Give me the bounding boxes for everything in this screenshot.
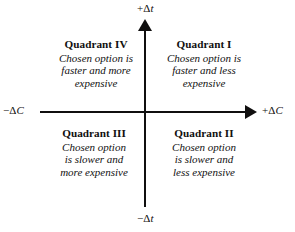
axis-label-positive-delta-t: +Δt	[137, 2, 154, 14]
quadrant-iv-block: Quadrant IV Chosen option is faster and …	[44, 38, 148, 89]
description-line: expensive	[152, 77, 256, 89]
delta-symbol: Δ	[268, 104, 275, 116]
delta-symbol: Δ	[9, 104, 16, 116]
quadrant-ii-block: Quadrant II Chosen option is slower and …	[152, 127, 256, 178]
variable-t: t	[151, 212, 154, 224]
description-line: is slower and	[152, 153, 256, 165]
delta-symbol: Δ	[143, 2, 150, 14]
description-line: faster and less	[152, 64, 256, 76]
variable-c: C	[17, 104, 24, 116]
delta-symbol: Δ	[143, 212, 150, 224]
axis-label-negative-delta-c: −ΔC	[3, 104, 24, 116]
description-line: more expensive	[42, 166, 146, 178]
description-line: is slower and	[42, 153, 146, 165]
quadrant-iii-description: Chosen option is slower and more expensi…	[42, 141, 146, 178]
description-line: Chosen option	[42, 141, 146, 153]
quadrant-ii-description: Chosen option is slower and less expensi…	[152, 141, 256, 178]
up-arrowhead-icon	[138, 19, 152, 31]
variable-c: C	[276, 104, 283, 116]
description-line: faster and more	[44, 64, 148, 76]
description-line: Chosen option is	[44, 52, 148, 64]
quadrant-iv-title: Quadrant IV	[44, 38, 148, 51]
description-line: expensive	[44, 77, 148, 89]
right-arrowhead-icon	[245, 105, 257, 119]
description-line: Chosen option is	[152, 52, 256, 64]
axis-label-positive-delta-c: +ΔC	[262, 104, 283, 116]
quadrant-iii-title: Quadrant III	[42, 127, 146, 140]
axis-label-negative-delta-t: −Δt	[137, 212, 154, 224]
description-line: Chosen option	[152, 141, 256, 153]
description-line: less expensive	[152, 166, 256, 178]
quadrant-iv-description: Chosen option is faster and more expensi…	[44, 52, 148, 89]
quadrant-ii-title: Quadrant II	[152, 127, 256, 140]
quadrant-diagram: +Δt −Δt −ΔC +ΔC Quadrant IV Chosen optio…	[0, 0, 295, 232]
quadrant-i-description: Chosen option is faster and less expensi…	[152, 52, 256, 89]
quadrant-i-title: Quadrant I	[152, 38, 256, 51]
quadrant-iii-block: Quadrant III Chosen option is slower and…	[42, 127, 146, 178]
quadrant-i-block: Quadrant I Chosen option is faster and l…	[152, 38, 256, 89]
variable-t: t	[151, 2, 154, 14]
